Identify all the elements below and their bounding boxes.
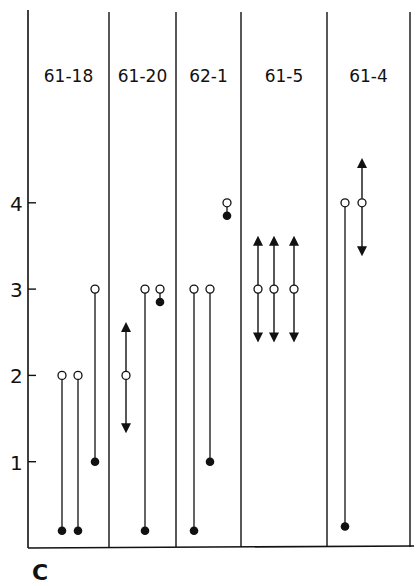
y-tick-label: 3 (10, 278, 23, 302)
data-item (141, 285, 150, 535)
data-item (253, 236, 263, 343)
filled-circle-marker (156, 298, 165, 307)
open-circle-marker (141, 285, 149, 293)
open-circle-marker (156, 285, 164, 293)
y-tick-label: 1 (10, 451, 23, 475)
filled-circle-marker (223, 211, 232, 220)
open-circle-marker (270, 285, 278, 293)
chart-frame (28, 10, 414, 548)
arrow-down-icon (289, 333, 299, 343)
column-header: 61-18 (44, 66, 93, 86)
open-circle-marker (74, 371, 82, 379)
data-item (121, 322, 131, 433)
y-ticks: 1234 (10, 192, 36, 475)
panel-label: C (32, 560, 48, 585)
filled-circle-marker (206, 457, 215, 466)
data-item (74, 371, 83, 535)
filled-circle-marker (190, 526, 199, 535)
chart-figure: 1234 61-1861-2062-161-561-4 C (0, 0, 419, 586)
open-circle-marker (58, 371, 66, 379)
y-tick-label: 2 (10, 364, 23, 388)
data-item (58, 371, 67, 535)
plot-area (58, 158, 367, 535)
open-circle-marker (290, 285, 298, 293)
column-dividers (109, 12, 410, 547)
open-circle-marker (223, 199, 231, 207)
data-item (289, 236, 299, 343)
filled-circle-marker (141, 526, 150, 535)
column-header: 62-1 (189, 66, 228, 86)
open-circle-marker (91, 285, 99, 293)
open-circle-marker (341, 199, 349, 207)
filled-circle-marker (91, 457, 100, 466)
arrow-down-icon (253, 333, 263, 343)
open-circle-marker (206, 285, 214, 293)
data-item (190, 285, 199, 535)
arrow-up-icon (121, 322, 131, 332)
column-header: 61-5 (265, 66, 304, 86)
arrow-up-icon (289, 236, 299, 246)
arrow-down-icon (357, 246, 367, 256)
open-circle-marker (190, 285, 198, 293)
arrow-down-icon (121, 423, 131, 433)
x-axis (28, 546, 414, 548)
arrow-up-icon (357, 158, 367, 168)
column-header: 61-20 (118, 66, 167, 86)
data-item (269, 236, 279, 343)
data-item (156, 285, 165, 306)
column-headers: 61-1861-2062-161-561-4 (44, 66, 388, 86)
arrow-down-icon (269, 333, 279, 343)
filled-circle-marker (74, 526, 83, 535)
filled-circle-marker (341, 522, 350, 531)
data-item (223, 199, 232, 220)
open-circle-marker (254, 285, 262, 293)
filled-circle-marker (58, 526, 67, 535)
arrow-up-icon (253, 236, 263, 246)
y-tick-label: 4 (10, 192, 23, 216)
open-circle-marker (358, 199, 366, 207)
arrow-up-icon (269, 236, 279, 246)
column-header: 61-4 (349, 66, 388, 86)
open-circle-marker (122, 371, 130, 379)
data-item (357, 158, 367, 256)
data-item (91, 285, 100, 466)
data-item (341, 199, 350, 531)
data-item (206, 285, 215, 466)
